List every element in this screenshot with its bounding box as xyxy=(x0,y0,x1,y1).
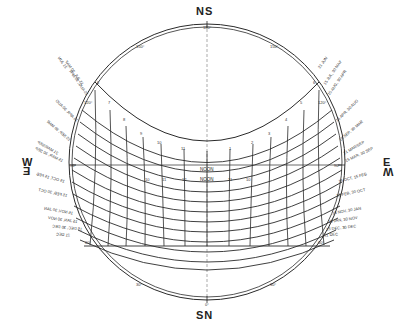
azimuth-lower-right: 60° xyxy=(318,240,324,245)
hour-label-inner: 12 xyxy=(182,177,186,182)
cardinal-bottom: SN xyxy=(196,309,213,321)
cardinal-left: WE xyxy=(22,158,32,176)
hour-label: 9 xyxy=(140,131,142,136)
hour-label: 11 xyxy=(181,146,185,151)
hour-label: 4 xyxy=(285,117,287,122)
hour-label: 3 xyxy=(268,131,270,136)
noon-label-inner: NOON xyxy=(200,177,214,182)
hour-label: 6 xyxy=(313,80,315,85)
hour-label: 2 xyxy=(251,140,253,145)
azimuth-bottom: 0° xyxy=(205,302,209,307)
hour-label: 7 xyxy=(108,100,110,105)
azimuth-right: 90° xyxy=(334,163,340,168)
hour-label: 10 xyxy=(157,140,161,145)
azimuth-upper-left-2: 120° xyxy=(84,100,92,105)
hour-label: 5 xyxy=(300,100,302,105)
azimuth-upper-left: 150° xyxy=(136,44,144,49)
azimuth-upper-right-2: 120° xyxy=(318,100,326,105)
hour-label: 1 xyxy=(229,146,231,151)
noon-label-top: NOON xyxy=(200,167,214,172)
azimuth-lower-left-2: 30° xyxy=(136,282,142,287)
cardinal-top: NS xyxy=(196,5,213,17)
hour-label: 6 xyxy=(97,80,99,85)
azimuth-left: 90° xyxy=(70,163,76,168)
hour-label-inner: 11 xyxy=(162,177,166,182)
hour-label-inner: 10 xyxy=(145,177,149,182)
hour-label: 8 xyxy=(123,117,125,122)
hour-label-inner: 10 xyxy=(246,177,250,182)
hour-label-inner: 11 xyxy=(228,177,232,182)
cardinal-right: EW xyxy=(383,158,393,176)
azimuth-lower-left: 60° xyxy=(85,240,91,245)
azimuth-lower-right-2: 30° xyxy=(270,282,276,287)
sun-path-diagram xyxy=(0,0,413,326)
azimuth-top: 180° xyxy=(203,25,211,30)
azimuth-upper-right: 150° xyxy=(270,44,278,49)
